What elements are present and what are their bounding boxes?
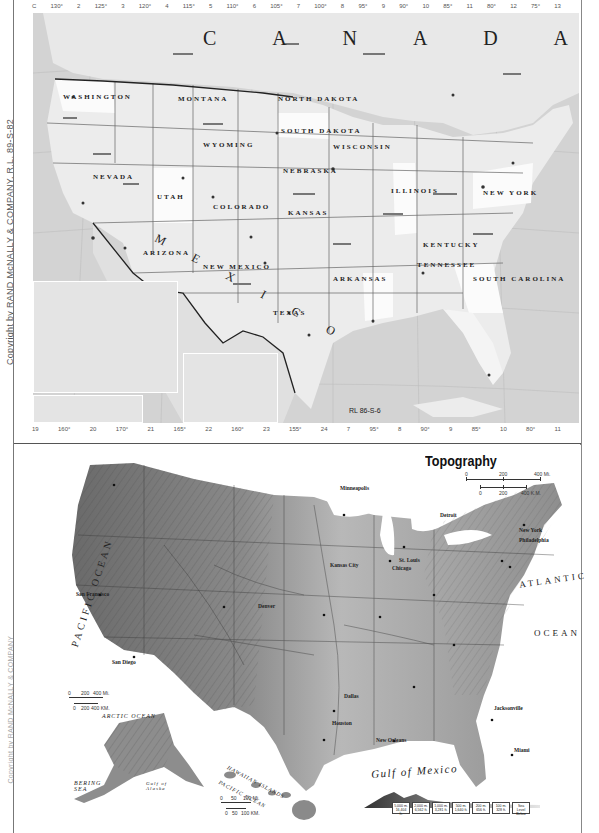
map-reference-code: RL 86-S-6: [349, 407, 381, 414]
grid-label: 165°: [174, 426, 186, 436]
grid-label: 13: [554, 3, 561, 13]
elevation-legend-cell: 1,000 m.3,281 ft.: [432, 802, 450, 814]
grid-label: 125°: [95, 3, 107, 13]
scale-km-400: 400 K.M.: [521, 490, 541, 496]
state-label: WISCONSIN: [333, 143, 392, 151]
elevation-legend-cell: 200 m.656 ft.: [472, 802, 490, 814]
grid-label: 7: [347, 426, 350, 436]
scale-km-200: 200: [499, 490, 507, 496]
label-ocean: OCEAN: [534, 628, 580, 638]
elevation-feet: 16,404 ft.: [394, 808, 408, 816]
city-label: New York: [519, 527, 542, 533]
state-label: ARKANSAS: [333, 275, 388, 283]
grid-label: 19: [32, 426, 39, 436]
scale-km-0: 0: [73, 705, 76, 711]
label-gulf-of-alaska: Gulf of Alaska: [146, 781, 170, 791]
grid-labels-top: C130°2125°3120°4115°5110°6105°7100°895°9…: [32, 3, 561, 13]
elevation-legend-cell: 2,000 m.6,562 ft.: [412, 802, 430, 814]
city-label: Jacksonville: [494, 705, 523, 711]
grid-label: 22: [205, 426, 212, 436]
state-label: NEW YORK: [483, 189, 538, 197]
grid-label: 21: [148, 426, 155, 436]
grid-label: 90°: [421, 426, 430, 436]
city-label: Dallas: [344, 693, 359, 699]
scale-mi-0: 0: [68, 690, 71, 696]
elevation-meters: Sea Level: [514, 804, 528, 812]
scale-bar-main: 0 200 400 Mi. 0 200 400 K.M.: [466, 475, 541, 499]
grid-label: 95°: [370, 426, 379, 436]
state-label: MONTANA: [178, 95, 228, 103]
grid-label: 100°: [314, 3, 326, 13]
grid-label: 85°: [472, 426, 481, 436]
scale-mi-400: 400 Mi.: [534, 471, 550, 477]
topography-map-panel[interactable]: Topography 0 200 400 Mi. 0 200 400 K.M. …: [14, 445, 581, 833]
elevation-legend-cell: 500 m.1,640 ft.: [452, 802, 470, 814]
elevation-feet: 1,640 ft.: [454, 808, 468, 812]
grid-label: 130°: [51, 3, 63, 13]
grid-label: 8: [341, 3, 344, 13]
hawaii-inset: [183, 353, 278, 423]
scale-km-100: 100 KM.: [241, 810, 260, 816]
elevation-legend-cell: 100 m.328 ft.: [492, 802, 510, 814]
political-map[interactable]: C A N A D A M E X I C O WASHINGTON MONTA…: [33, 13, 579, 423]
city-label: St. Louis: [399, 557, 420, 563]
country-label-canada: C A N A D A: [203, 27, 579, 50]
scale-mi-200: 200: [81, 690, 89, 696]
scale-km-0: 0: [479, 490, 482, 496]
grid-label: 20: [90, 426, 97, 436]
state-label: ILLINOIS: [391, 187, 439, 195]
city-label: New Orleans: [376, 737, 406, 743]
scale-mi-0: 0: [465, 471, 468, 477]
city-label: Denver: [258, 603, 275, 609]
city-label: Philadelphia: [519, 537, 549, 543]
grid-label: 110°: [227, 3, 239, 13]
elevation-legend-cells: 5,000 m.16,404 ft.2,000 m.6,562 ft.1,000…: [392, 802, 530, 814]
scale-km-200: 200: [81, 705, 89, 711]
state-label: NORTH DAKOTA: [278, 95, 359, 103]
grid-label: 23: [263, 426, 270, 436]
grid-label: 11: [467, 3, 473, 13]
grid-labels-bottom: 19160°20170°21165°22160°23155°24795°890°…: [32, 426, 561, 436]
city-label: Miami: [514, 747, 530, 753]
grid-label: 8: [398, 426, 401, 436]
grid-label: 85°: [443, 3, 452, 13]
grid-label: 3: [121, 3, 124, 13]
grid-label: 170°: [116, 426, 128, 436]
state-label: TEXAS: [273, 309, 306, 317]
scale-mi-0: 0: [220, 795, 223, 801]
grid-label: 4: [165, 3, 168, 13]
scale-km-50: 50: [232, 810, 238, 816]
grid-label: 12: [510, 3, 517, 13]
scale-mi-200: 200: [499, 471, 507, 477]
elevation-feet: Below: [514, 812, 528, 816]
elevation-legend-cell: 5,000 m.16,404 ft.: [392, 802, 410, 814]
city-label: San Francisco: [76, 591, 109, 597]
state-label: NEBRASKA: [283, 167, 338, 175]
grid-label: 2: [77, 3, 80, 13]
grid-label: 115°: [183, 3, 195, 13]
elevation-feet: 3,281 ft.: [434, 808, 448, 812]
city-label: Detroit: [440, 512, 457, 518]
city-label: San Diego: [112, 659, 136, 665]
grid-label: 160°: [231, 426, 243, 436]
grid-label: 11: [555, 426, 561, 436]
scale-mi-50: 50: [231, 795, 237, 801]
state-label: NEW MEXICO: [203, 263, 271, 271]
state-label: WASHINGTON: [63, 93, 132, 101]
grid-label: 5: [209, 3, 212, 13]
city-label: Kansas City: [330, 562, 359, 568]
political-map-panel: C130°2125°3120°4115°5110°6105°7100°895°9…: [14, 0, 581, 444]
grid-label: 7: [297, 3, 300, 13]
grid-label: 9: [449, 426, 452, 436]
map-title: Topography: [425, 453, 497, 469]
elevation-legend: 5,000 m.16,404 ft.2,000 m.6,562 ft.1,000…: [364, 790, 540, 822]
grid-label: 80°: [487, 3, 496, 13]
city-label: Houston: [332, 720, 352, 726]
scale-bar-alaska: 0 200 400 Mi. 0 200 400 KM.: [69, 693, 109, 713]
grid-label: C: [32, 3, 36, 13]
label-arctic-ocean: ARCTIC OCEAN: [102, 713, 156, 719]
state-label: SOUTH CAROLINA: [473, 275, 565, 283]
alaska-inset: [33, 281, 178, 393]
grid-label: 24: [321, 426, 328, 436]
grid-label: 80°: [526, 426, 535, 436]
